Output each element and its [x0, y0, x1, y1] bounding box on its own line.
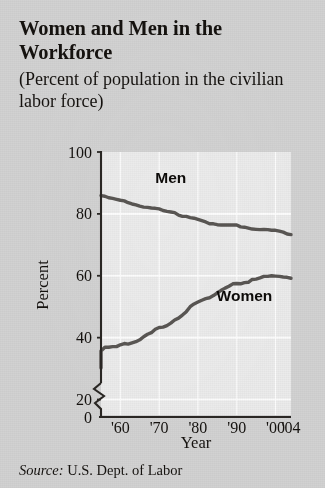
plot-area-background	[101, 152, 291, 415]
line-chart: 020406080100 '60'70'80'90'00'04 Percent …	[0, 0, 325, 488]
figure-panel: Women and Men in the Workforce (Percent …	[0, 0, 325, 488]
y-tick-label-100: 100	[68, 144, 92, 161]
y-axis-tick-labels: 020406080100	[68, 144, 92, 426]
y-tick-label-20: 20	[76, 391, 92, 408]
y-tick-label-60: 60	[76, 267, 92, 284]
y-tick-label-40: 40	[76, 329, 92, 346]
x-tick-label-1990: '90	[227, 419, 246, 436]
y-tick-label-80: 80	[76, 205, 92, 222]
source-value: U.S. Dept. of Labor	[67, 462, 182, 478]
x-tick-label-1970: '70	[150, 419, 169, 436]
source-keyword: Source:	[19, 462, 64, 478]
series-label-men: Men	[155, 169, 186, 186]
x-tick-label-1960: '60	[111, 419, 130, 436]
y-axis-title: Percent	[33, 260, 52, 310]
x-axis-title: Year	[181, 433, 212, 452]
source-note: Source: U.S. Dept. of Labor	[19, 462, 182, 479]
x-tick-label-2004: '04	[282, 419, 301, 436]
series-label-women: Women	[217, 287, 273, 304]
y-tick-label-0: 0	[84, 409, 92, 426]
